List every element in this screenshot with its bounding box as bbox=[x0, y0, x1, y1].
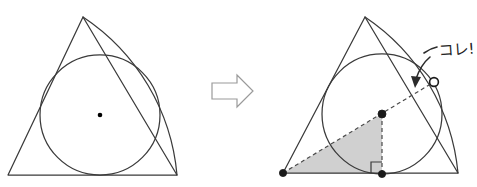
figure-canvas: コレ! bbox=[0, 0, 477, 187]
right-arrow-icon bbox=[212, 75, 253, 107]
tangent-point-open-dot bbox=[430, 78, 439, 87]
geometry-diagram bbox=[0, 0, 477, 187]
incircle-center-dot bbox=[378, 110, 386, 118]
left-figure bbox=[8, 17, 177, 175]
callout-label: コレ! bbox=[438, 41, 475, 58]
left-center-dot bbox=[98, 113, 103, 118]
bottom-left-vertex-dot bbox=[279, 169, 286, 176]
left-triangle-outline bbox=[8, 17, 177, 175]
right-figure bbox=[279, 17, 458, 178]
foot-of-perpendicular-dot bbox=[378, 170, 385, 177]
